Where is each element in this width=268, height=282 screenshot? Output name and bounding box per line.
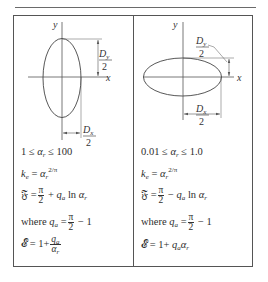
- right-y-label: y: [172, 19, 178, 30]
- right-dx-den: 2: [199, 116, 204, 127]
- right-where-formula: where qa =π2 − 1: [141, 213, 212, 232]
- right-E-formula: 𝓔 = 1+ qaαr: [141, 239, 189, 251]
- left-range-formula: 1 ≤ αr ≤ 100: [21, 146, 72, 158]
- left-E-formula: 𝓔 = 1+qaαr: [21, 235, 62, 254]
- right-F-formula: 𝔉 =π2 − qa ln αr: [141, 186, 207, 205]
- right-range-formula: 0.01 ≤ αr ≤ 1.0: [141, 146, 203, 158]
- right-ke-formula: ke = αr2/π: [141, 168, 177, 180]
- left-where-formula: where qa =π2 − 1: [21, 213, 92, 232]
- right-dy-den: 2: [199, 48, 204, 59]
- right-x-label: x: [236, 72, 242, 83]
- right-dy-num: Dy: [195, 35, 207, 48]
- left-ke-formula: ke = αr2/π: [21, 168, 57, 180]
- left-F-formula: 𝔉 =π2 + qa ln αr: [21, 186, 87, 205]
